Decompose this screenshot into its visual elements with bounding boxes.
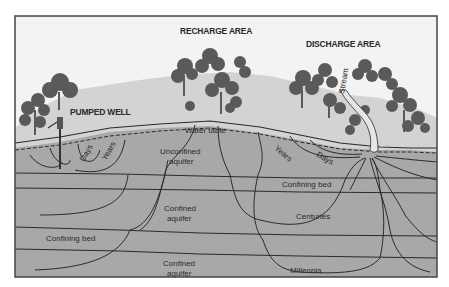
confined-aquifer-upper-label-2: aquifer <box>167 214 192 223</box>
groundwater-flow-diagram: RECHARGE AREA DISCHARGE AREA PUMPED WELL… <box>0 0 449 287</box>
confined-aquifer-upper-label-1: Confined <box>164 204 196 213</box>
recharge-area-label: RECHARGE AREA <box>180 26 252 36</box>
confined-aquifer-lower-label-1: Confined <box>163 259 195 268</box>
confining-bed-lower-label: Confining bed <box>46 234 95 243</box>
water-table-label: Water table <box>185 126 226 135</box>
pumped-well-label: PUMPED WELL <box>70 107 131 117</box>
discharge-area-label: DISCHARGE AREA <box>306 39 380 49</box>
millennia-label: Millennia <box>290 266 322 275</box>
unconfined-aquifer-label-1: Unconfined <box>160 147 200 156</box>
unconfined-aquifer-label-2: aquifer <box>169 157 194 166</box>
confining-bed-upper-label: Confining bed <box>282 180 331 189</box>
centuries-label: Centuries <box>296 212 330 221</box>
